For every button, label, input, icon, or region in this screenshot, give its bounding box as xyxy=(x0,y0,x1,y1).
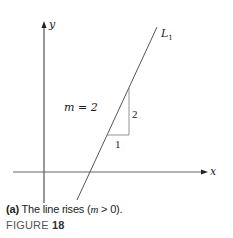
line-l1-label: L1 xyxy=(160,27,173,42)
caption-text-after: > 0). xyxy=(98,203,122,215)
line-l1-label-letter: L xyxy=(160,27,168,40)
y-axis-arrow-icon xyxy=(42,21,47,28)
figure-number: 18 xyxy=(52,219,65,231)
figure-prefix: FIGURE xyxy=(6,219,52,231)
rise-label: 2 xyxy=(132,108,138,120)
slope-annotation: m = 2 xyxy=(64,101,98,114)
caption-text-before: The line rises ( xyxy=(19,203,91,215)
x-axis-arrow-icon xyxy=(201,170,208,175)
y-axis-label: y xyxy=(48,18,56,31)
figure-caption: (a) The line rises (m > 0). xyxy=(6,203,122,215)
figure-number-label: FIGURE 18 xyxy=(6,219,65,231)
x-axis-label: x xyxy=(210,165,217,178)
run-label: 1 xyxy=(115,138,121,150)
caption-part-label: (a) xyxy=(6,203,19,215)
line-l1-label-subscript: 1 xyxy=(168,34,172,42)
